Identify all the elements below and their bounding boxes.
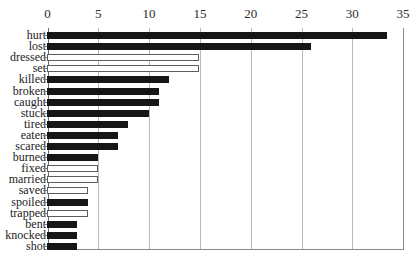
plot-area: hurtlostdressedsetkilledbrokencaughtstuc… — [0, 28, 417, 250]
bar-rows: hurtlostdressedsetkilledbrokencaughtstuc… — [0, 28, 417, 250]
bar — [47, 154, 98, 161]
bar — [47, 143, 118, 150]
bar-row: scared — [0, 141, 417, 152]
bar — [47, 232, 77, 239]
bar — [47, 176, 98, 183]
bar — [47, 54, 199, 61]
bar-row: lost — [0, 41, 417, 52]
bar-row: tired — [0, 119, 417, 130]
bar-row: killed — [0, 74, 417, 85]
bar — [47, 99, 159, 106]
bar — [47, 43, 311, 50]
bar-row: bent — [0, 219, 417, 230]
bar-row: eaten — [0, 130, 417, 141]
x-tick-label-25: 25 — [295, 7, 308, 21]
bar-row: knocked — [0, 230, 417, 241]
bar — [47, 76, 169, 83]
bar-row: saved — [0, 185, 417, 196]
bar-row: married — [0, 174, 417, 185]
bar-chart: 05101520253035 hurtlostdressedsetkilledb… — [0, 0, 417, 259]
bar — [47, 210, 88, 217]
bar-row: dressed — [0, 52, 417, 63]
bar — [47, 199, 88, 206]
bar — [47, 187, 88, 194]
bar-row: stuck — [0, 108, 417, 119]
bar — [47, 110, 149, 117]
x-tick-label-15: 15 — [193, 7, 206, 21]
bar — [47, 243, 77, 250]
x-tick-label-5: 5 — [95, 7, 102, 21]
bar-row: fixed — [0, 163, 417, 174]
bar-row: trapped — [0, 208, 417, 219]
bar — [47, 132, 118, 139]
x-tick-label-30: 30 — [346, 7, 359, 21]
bar-row: broken — [0, 86, 417, 97]
x-tick-label-10: 10 — [143, 7, 156, 21]
bar — [47, 121, 128, 128]
bar-row: set — [0, 63, 417, 74]
bar-row: spoiled — [0, 197, 417, 208]
bar-row: caught — [0, 97, 417, 108]
bar-row: shot — [0, 241, 417, 252]
x-tick-label-20: 20 — [244, 7, 257, 21]
bar — [47, 165, 98, 172]
bar — [47, 32, 387, 39]
bar-category-label: shot — [0, 240, 46, 252]
bar-row: hurt — [0, 30, 417, 41]
x-tick-label-0: 0 — [44, 7, 51, 21]
x-tick-label-35: 35 — [397, 7, 410, 21]
x-axis-tick-labels: 05101520253035 — [0, 0, 417, 28]
bar-row: burned — [0, 152, 417, 163]
bar — [47, 221, 77, 228]
bar — [47, 88, 159, 95]
bar — [47, 65, 199, 72]
